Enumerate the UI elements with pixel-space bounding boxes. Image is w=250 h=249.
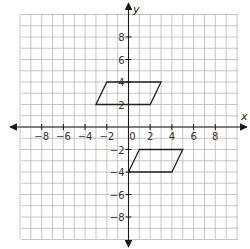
x-tick-label: 2 [147,131,153,142]
x-tick-label: −4 [78,131,93,142]
x-tick-label: 6 [190,131,196,142]
y-tick-label: 6 [118,55,124,66]
y-tick-label: −2 [110,145,125,156]
x-tick-label: −8 [34,131,49,142]
x-tick-label: −6 [56,131,71,142]
y-tick-label: −8 [110,212,125,223]
coordinate-plane: x y −8−6−4−2024688642−2−4−6−8 [0,0,250,249]
y-tick-label: −6 [110,190,125,201]
x-tick-label: 0 [129,131,135,142]
x-tick-label: 4 [169,131,175,142]
y-axis-label: y [132,3,140,16]
x-tick-label: 8 [212,131,218,142]
y-tick-label: 8 [118,32,124,43]
y-tick-label: −4 [110,167,125,178]
coordinate-plane-svg: x y −8−6−4−2024688642−2−4−6−8 [0,0,250,249]
x-tick-label: −2 [99,131,114,142]
x-axis-label: x [240,110,248,123]
axes: x y [10,3,248,247]
